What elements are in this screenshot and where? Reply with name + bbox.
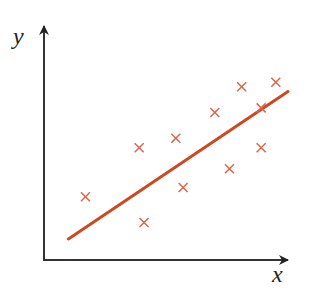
- data-point-marker: [135, 143, 144, 152]
- data-point-marker: [179, 183, 188, 192]
- data-point-marker: [210, 108, 219, 117]
- y-axis-label: y: [11, 23, 24, 49]
- data-point-marker: [171, 134, 180, 143]
- data-point-marker: [271, 78, 280, 87]
- data-point-markers: [81, 78, 280, 227]
- data-point-marker: [81, 192, 90, 201]
- scatter-chart: y x: [0, 0, 312, 296]
- axes: [43, 26, 288, 261]
- data-point-marker: [237, 82, 246, 91]
- data-point-marker: [257, 143, 266, 152]
- x-axis-label: x: [271, 261, 283, 287]
- data-point-marker: [140, 218, 149, 227]
- regression-line: [68, 92, 288, 239]
- data-point-marker: [225, 164, 234, 173]
